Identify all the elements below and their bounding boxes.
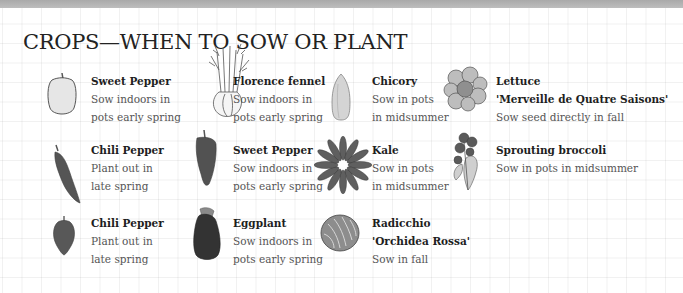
- crop-desc-line: pots early spring: [233, 177, 323, 195]
- crop-eggplant: Eggplant Sow indoors in pots early sprin…: [233, 214, 323, 268]
- crop-desc-line: Sow indoors in: [233, 232, 323, 250]
- crop-chili-pepper-2: Chili Pepper Plant out in late spring: [91, 214, 164, 268]
- crop-desc-line: Plant out in: [91, 232, 164, 250]
- crop-variety: 'Merveille de Quatre Saisons': [496, 90, 668, 108]
- broccoli-icon: [450, 130, 484, 192]
- chili-pepper-long-icon: [52, 143, 82, 205]
- crop-name: Chicory: [372, 72, 449, 90]
- crop-chili-pepper-1: Chili Pepper Plant out in late spring: [91, 141, 164, 195]
- sweet-pepper-pale-icon: [44, 70, 80, 118]
- crop-name: Eggplant: [233, 214, 323, 232]
- crop-desc-line: Plant out in: [91, 159, 164, 177]
- chicory-icon: [330, 72, 352, 122]
- crop-desc-line: pots early spring: [233, 108, 325, 126]
- top-band: [0, 0, 683, 8]
- crop-kale: Kale Sow in pots in midsummer: [372, 141, 449, 195]
- crop-desc-line: late spring: [91, 177, 164, 195]
- radicchio-icon: [320, 214, 360, 252]
- crop-desc-line: in midsummer: [372, 108, 449, 126]
- crop-name: Lettuce: [496, 72, 668, 90]
- crop-name: Florence fennel: [233, 72, 325, 90]
- crop-desc-line: late spring: [91, 250, 164, 268]
- crop-desc-line: Sow in pots in midsummer: [496, 159, 638, 177]
- crop-sprouting-broccoli: Sprouting broccoli Sow in pots in midsum…: [496, 141, 638, 177]
- crop-radicchio: Radicchio 'Orchidea Rossa' Sow in fall: [372, 214, 470, 268]
- chili-pepper-round-icon: [52, 214, 76, 256]
- crop-desc-line: Sow indoors in: [233, 159, 323, 177]
- crop-desc-line: Sow indoors in: [233, 90, 325, 108]
- lettuce-icon: [442, 66, 488, 112]
- crop-name: Kale: [372, 141, 449, 159]
- crop-desc-line: Sow indoors in: [91, 90, 181, 108]
- crop-desc-line: Sow in pots: [372, 90, 449, 108]
- crop-name: Sprouting broccoli: [496, 141, 638, 159]
- crop-desc-line: in midsummer: [372, 177, 449, 195]
- crop-chicory: Chicory Sow in pots in midsummer: [372, 72, 449, 126]
- crop-desc-line: Sow seed directly in fall: [496, 108, 668, 126]
- crop-florence-fennel: Florence fennel Sow indoors in pots earl…: [233, 72, 325, 126]
- crop-name: Chili Pepper: [91, 141, 164, 159]
- crop-name: Sweet Pepper: [91, 72, 181, 90]
- sweet-pepper-dark-icon: [193, 128, 219, 188]
- crop-sweet-pepper-1: Sweet Pepper Sow indoors in pots early s…: [91, 72, 181, 126]
- eggplant-icon: [192, 205, 222, 261]
- crop-name: Sweet Pepper: [233, 141, 323, 159]
- crop-sweet-pepper-2: Sweet Pepper Sow indoors in pots early s…: [233, 141, 323, 195]
- crop-name: Chili Pepper: [91, 214, 164, 232]
- crop-desc-line: Sow in fall: [372, 250, 470, 268]
- crop-desc-line: pots early spring: [233, 250, 323, 268]
- crop-desc-line: pots early spring: [91, 108, 181, 126]
- crop-name: Radicchio: [372, 214, 470, 232]
- crop-lettuce: Lettuce 'Merveille de Quatre Saisons' So…: [496, 72, 668, 126]
- crop-desc-line: Sow in pots: [372, 159, 449, 177]
- kale-icon: [314, 136, 372, 194]
- crop-variety: 'Orchidea Rossa': [372, 232, 470, 250]
